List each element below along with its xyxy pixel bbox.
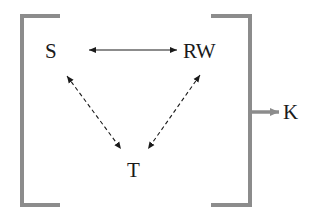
node-rw-label: RW	[183, 41, 216, 62]
node-t-label: T	[127, 160, 140, 181]
right-bracket	[211, 16, 250, 205]
diagram-canvas: S RW T K	[0, 0, 317, 217]
node-k-label: K	[283, 102, 298, 123]
diagram-svg	[0, 0, 317, 217]
arrow-rw-t	[148, 75, 200, 149]
arrow-s-t	[67, 76, 121, 149]
node-s-label: S	[45, 41, 57, 62]
